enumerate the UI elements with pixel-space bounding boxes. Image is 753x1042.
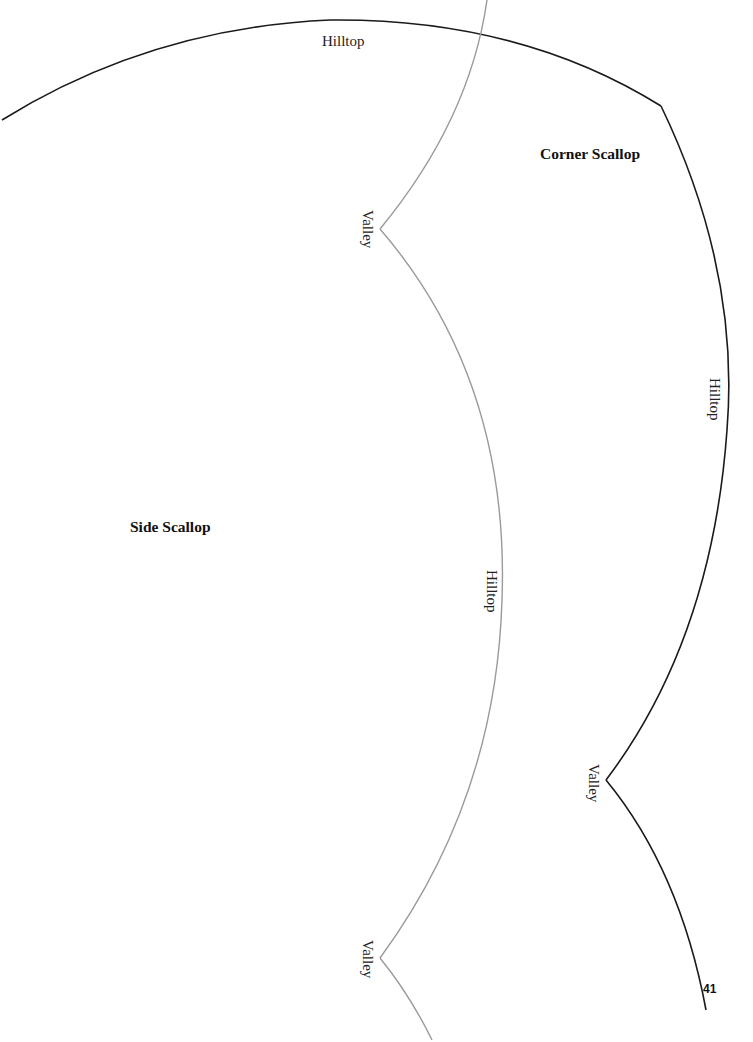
side-scallop-valley-lower-label: Valley: [360, 940, 375, 978]
corner-scallop-right-arc: [606, 106, 729, 780]
scallop-outlines: [0, 0, 753, 1042]
corner-scallop-lower-arc: [606, 780, 706, 1010]
page-number: 41: [703, 983, 716, 995]
side-scallop-top-segment: [380, 0, 487, 229]
template-page: Hilltop Corner Scallop Side Scallop Vall…: [0, 0, 753, 1042]
top-hilltop-label: Hilltop: [322, 34, 365, 49]
side-scallop-bottom-segment: [380, 958, 432, 1040]
side-scallop-title: Side Scallop: [130, 519, 211, 535]
corner-scallop-title: Corner Scallop: [540, 146, 640, 162]
corner-scallop-valley-label: Valley: [586, 764, 601, 802]
side-scallop-valley-upper-label: Valley: [360, 210, 375, 248]
side-scallop-hilltop-label: Hilltop: [484, 570, 499, 613]
corner-scallop-hilltop-label: Hilltop: [707, 378, 722, 421]
